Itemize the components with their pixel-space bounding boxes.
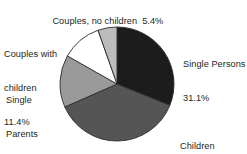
pie-label-single-parents: Single Parents 14.8% — [6, 73, 38, 154]
pie-label-single-parents-line1: Single — [6, 95, 38, 106]
pie-slice-group — [60, 27, 174, 141]
pie-label-children-name: Children — [180, 141, 215, 152]
pie-label-single-persons: Single Persons 31.1% — [183, 37, 246, 127]
pie-label-couples-with-children-line1: Couples with — [4, 49, 57, 60]
pie-label-single-parents-line2: Parents — [6, 129, 38, 140]
pie-label-children: Children 37.3% — [180, 119, 215, 154]
pie-label-single-persons-name: Single Persons — [183, 59, 246, 70]
pie-label-couples-no-children-percent: 5.4% — [142, 16, 163, 26]
pie-chart-figure: Couples, no children5.4% Couples with ch… — [0, 0, 247, 154]
pie-label-couples-no-children: Couples, no children5.4% — [42, 5, 163, 39]
pie-label-couples-no-children-name: Couples, no children — [52, 16, 137, 26]
pie-label-single-persons-percent: 31.1% — [183, 93, 246, 104]
